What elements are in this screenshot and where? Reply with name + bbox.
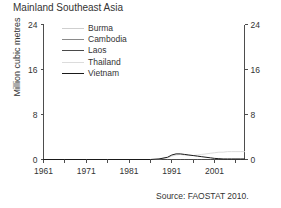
x-tick-label: 1971 xyxy=(77,166,96,176)
legend-item[interactable]: Thailand xyxy=(62,57,127,68)
legend-item-label: Thailand xyxy=(88,57,121,68)
y-tick-label-left: 0 xyxy=(33,155,38,165)
legend-item-label: Vietnam xyxy=(88,68,119,79)
legend-swatch-icon xyxy=(62,39,84,40)
legend-item[interactable]: Vietnam xyxy=(62,68,127,79)
series-group xyxy=(44,152,245,160)
series-line-vietnam xyxy=(44,154,245,160)
legend-item[interactable]: Cambodia xyxy=(62,34,127,45)
chart-legend: BurmaCambodiaLaosThailandVietnam xyxy=(62,23,127,79)
legend-swatch-icon xyxy=(62,73,84,74)
y-tick-label-right: 16 xyxy=(251,65,261,75)
legend-swatch-icon xyxy=(62,50,84,51)
y-tick-label-left: 24 xyxy=(28,20,38,30)
y-tick-label-right: 8 xyxy=(251,110,256,120)
legend-item-label: Cambodia xyxy=(88,34,127,45)
x-tick-label: 1991 xyxy=(162,166,181,176)
legend-swatch-icon xyxy=(62,28,84,29)
legend-item[interactable]: Burma xyxy=(62,23,127,34)
chart-container: Mainland Southeast Asia Million cubic me… xyxy=(0,0,281,208)
plot-area: 00881616242419611971198119912001 xyxy=(0,0,281,208)
y-tick-label-left: 8 xyxy=(33,110,38,120)
x-tick-label: 1981 xyxy=(120,166,139,176)
y-tick-label-right: 0 xyxy=(251,155,256,165)
legend-item[interactable]: Laos xyxy=(62,45,127,56)
legend-item-label: Laos xyxy=(88,45,106,56)
legend-item-label: Burma xyxy=(88,23,113,34)
source-note: Source: FAOSTAT 2010. xyxy=(156,191,249,201)
legend-swatch-icon xyxy=(62,62,84,63)
y-tick-label-left: 16 xyxy=(28,65,38,75)
x-tick-label: 2001 xyxy=(205,166,224,176)
x-tick-label: 1961 xyxy=(34,166,53,176)
y-tick-label-right: 24 xyxy=(251,20,261,30)
